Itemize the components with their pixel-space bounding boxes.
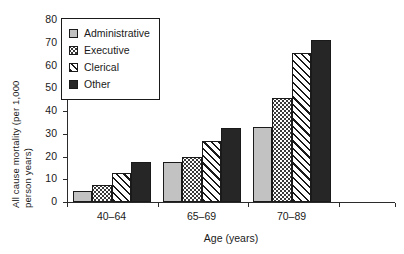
- x-axis-group-label: 65–69: [187, 210, 216, 222]
- swatch-other-icon: [69, 80, 78, 89]
- y-axis-tick-label: 10: [45, 172, 57, 184]
- y-axis-tick-label: 80: [45, 13, 57, 25]
- x-axis-group-label: 70–89: [277, 210, 306, 222]
- y-axis-tick-label: 50: [45, 81, 57, 93]
- bar-other-65-69: [221, 128, 241, 202]
- bar-executive-70-89: [272, 98, 292, 202]
- y-axis-tick-label: 20: [45, 150, 57, 162]
- bar-administrative-65-69: [163, 162, 183, 202]
- x-axis-group-label: 40–64: [97, 210, 126, 222]
- bar-other-70-89: [311, 40, 331, 202]
- bar-chart-figure: All cause mortality (per 1,000 person ye…: [0, 0, 404, 254]
- legend-item-administrative: Administrative: [69, 25, 150, 42]
- legend-item-clerical: Clerical: [69, 59, 150, 76]
- y-axis-tick-label: 0: [51, 195, 57, 207]
- y-axis-tick: 10: [63, 179, 67, 180]
- x-axis-line: [67, 202, 395, 203]
- y-axis-title: All cause mortality (per 1,000 person ye…: [0, 0, 40, 220]
- y-axis-tick: 30: [63, 134, 67, 135]
- swatch-clerical-icon: [69, 63, 78, 72]
- x-axis-tick: [248, 203, 249, 207]
- y-axis-tick-label: 30: [45, 127, 57, 139]
- swatch-executive-icon: [69, 46, 78, 55]
- legend-item-label: Executive: [84, 45, 130, 56]
- y-axis-tick-label: 60: [45, 59, 57, 71]
- x-axis-tick: [339, 203, 340, 207]
- y-axis-tick-label: 70: [45, 36, 57, 48]
- bar-administrative-70-89: [253, 127, 273, 202]
- legend-item-other: Other: [69, 76, 150, 93]
- bar-administrative-40-64: [73, 191, 93, 202]
- bar-clerical-40-64: [112, 173, 132, 202]
- x-axis-tick: [67, 203, 68, 207]
- legend-item-executive: Executive: [69, 42, 150, 59]
- y-axis-tick: 20: [63, 157, 67, 158]
- x-axis-title: Age (years): [67, 232, 395, 244]
- bar-clerical-65-69: [202, 141, 222, 202]
- bar-executive-40-64: [92, 185, 112, 202]
- y-axis-tick: 40: [63, 111, 67, 112]
- legend: AdministrativeExecutiveClericalOther: [61, 18, 160, 100]
- bar-executive-65-69: [182, 157, 202, 203]
- y-axis-title-line-1: All cause mortality (per 1,000: [10, 80, 22, 208]
- legend-item-label: Clerical: [84, 62, 119, 73]
- bar-clerical-70-89: [292, 53, 312, 202]
- x-axis-tick: [395, 203, 396, 207]
- legend-item-label: Administrative: [84, 28, 150, 39]
- y-axis-title-line-2: person years): [22, 148, 34, 208]
- y-axis-tick-label: 40: [45, 104, 57, 116]
- swatch-administrative-icon: [69, 29, 78, 38]
- bar-other-40-64: [131, 162, 151, 202]
- legend-item-label: Other: [84, 79, 110, 90]
- x-axis-tick: [158, 203, 159, 207]
